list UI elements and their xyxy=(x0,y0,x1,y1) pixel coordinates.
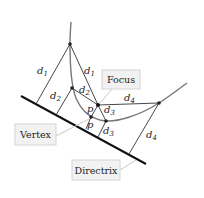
parabola-diagram: Focus Vertex Directrix d1 d1 d2 d2 d3 d3… xyxy=(0,0,204,198)
directrix-label: Directrix xyxy=(75,165,119,176)
d3-upper-label: d3 xyxy=(104,104,115,117)
d1-right-label: d1 xyxy=(84,65,95,78)
focus-leader xyxy=(100,89,112,103)
d4-lower-label: d4 xyxy=(146,129,157,142)
point-1 xyxy=(68,42,72,46)
point-3 xyxy=(104,119,108,123)
focus-label: Focus xyxy=(107,74,135,85)
d2-left-label: d2 xyxy=(50,90,61,103)
point-4 xyxy=(157,101,161,105)
directrix-leader xyxy=(120,160,136,170)
directrix-callout: Directrix xyxy=(72,160,120,180)
vertex-label: Vertex xyxy=(19,129,52,140)
d4-upper-label: d4 xyxy=(124,92,135,105)
d3-lower-label: d3 xyxy=(103,125,114,138)
point-2 xyxy=(70,86,74,90)
vertex-callout: Vertex xyxy=(15,124,56,145)
p-upper-label: p xyxy=(87,103,94,114)
d2-right-label: d2 xyxy=(79,84,90,97)
vertex-leader xyxy=(56,119,89,136)
focus-point xyxy=(96,103,100,107)
p-lower-label: p xyxy=(87,119,94,130)
focus-callout: Focus xyxy=(102,70,140,89)
d1-left-label: d1 xyxy=(37,65,48,78)
